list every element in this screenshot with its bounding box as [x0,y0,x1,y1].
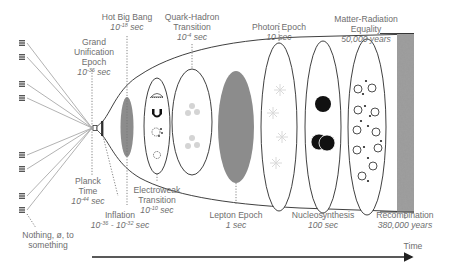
equiv-icon [19,81,25,87]
svg-text:Photon Epoch: Photon Epoch [252,22,306,32]
svg-text:Matter-Radiation: Matter-Radiation [334,14,398,24]
svg-text:Nucleosynthesis: Nucleosynthesis [292,210,355,220]
svg-text:Equality: Equality [351,24,382,34]
time-axis-label: Time [404,241,423,251]
label-quark-hadron: Quark-Hadron Transition 10-4 sec [165,12,220,42]
label-photon-epoch: Photon Epoch 10 sec [252,22,306,42]
quark-hadron-region [172,69,212,175]
svg-text:Planck: Planck [75,176,101,186]
svg-text:Grand: Grand [82,37,106,47]
electroweak-region [144,78,170,174]
equiv-icon [19,166,25,172]
svg-text:10-4 sec: 10-4 sec [177,32,208,43]
label-lepton-epoch: Lepton Epoch 1 sec [209,210,262,230]
leader-inflation [103,136,118,196]
label-matter-radiation: Matter-Radiation Equality 50,000 years [334,14,398,44]
equiv-icon [19,40,25,46]
matter-radiation-region [348,39,386,215]
universe-timeline-diagram: Grand Unification Epoch 10-36 sec Hot Bi… [0,0,452,275]
svg-text:Hot Big Bang: Hot Big Bang [102,12,153,22]
svg-text:Nothing, ø, tosomething: Nothing, ø, tosomething [22,230,74,250]
svg-text:Time: Time [79,186,98,196]
svg-text:Inflation: Inflation [105,210,135,220]
svg-text:10-36 - 10-32 sec: 10-36 - 10-32 sec [91,220,150,231]
label-grand-unification: Grand Unification Epoch 10-36 sec [74,37,114,77]
label-origin: Nothing, ø, tosomething [22,230,74,250]
svg-text:Lepton Epoch: Lepton Epoch [209,210,262,220]
svg-text:10-36 sec: 10-36 sec [77,67,111,78]
svg-text:1 sec: 1 sec [226,220,247,230]
equiv-icon [19,193,25,199]
origin-symbols [19,40,25,213]
svg-text:Recombination: Recombination [376,210,434,220]
svg-text:Epoch: Epoch [82,57,107,67]
equiv-icon [19,207,25,213]
label-recombination: Recombination 380,000 years [376,210,434,230]
svg-text:Quark-Hadron: Quark-Hadron [165,12,220,22]
photon-epoch-region [261,43,297,211]
svg-text:10-44 sec: 10-44 sec [71,196,105,207]
label-electroweak: Electroweak Transition 10-10 sec [134,185,182,215]
recombination-band-texture [397,33,414,212]
nucleosynthesis-region [305,41,341,213]
equiv-icon [19,152,25,158]
equiv-icon [19,54,25,60]
label-nucleosynthesis: Nucleosynthesis 100 sec [292,210,355,230]
svg-text:Transition: Transition [138,195,176,205]
svg-text:10-18 sec: 10-18 sec [110,22,144,33]
svg-text:10-10 sec: 10-10 sec [140,205,174,216]
singularity-icon [93,121,103,136]
svg-text:100 sec: 100 sec [308,220,339,230]
lepton-epoch-region [218,71,254,183]
svg-text:380,000 years: 380,000 years [378,220,433,230]
svg-text:Electroweak: Electroweak [134,185,182,195]
origin-leader-line [27,214,36,228]
svg-text:Transition: Transition [173,22,211,32]
equiv-icon [19,95,25,101]
svg-text:Unification: Unification [74,47,114,57]
svg-text:10 sec: 10 sec [266,32,292,42]
label-planck-time: Planck Time 10-44 sec [71,176,105,206]
label-hot-big-bang: Hot Big Bang 10-18 sec [102,12,153,32]
svg-text:50,000 years: 50,000 years [341,34,391,44]
